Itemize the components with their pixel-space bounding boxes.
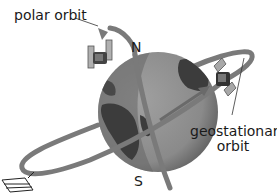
polar-satellite-icon — [88, 40, 112, 68]
geostationary-label-line1: geostationary — [190, 124, 276, 139]
orbit-diagram — [0, 0, 277, 195]
geostationary-label-line2: orbit — [190, 139, 276, 154]
north-label: N — [131, 40, 141, 55]
south-label: S — [134, 174, 143, 189]
polar-orbit-label: polar orbit — [14, 8, 87, 23]
geostationary-orbit-label: geostationary orbit — [190, 124, 276, 154]
